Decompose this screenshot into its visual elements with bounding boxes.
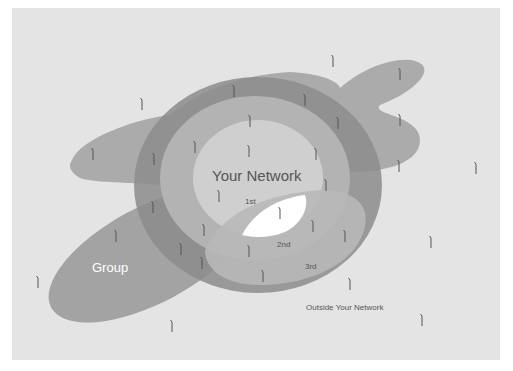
your-network-label: Your Network xyxy=(212,167,302,184)
outside-network-label: Outside Your Network xyxy=(306,303,384,312)
person-icon xyxy=(171,320,173,332)
person-icon xyxy=(141,98,143,110)
person-icon xyxy=(475,162,477,174)
person-icon xyxy=(37,276,39,288)
group-label: Group xyxy=(92,260,128,275)
person-icon xyxy=(332,55,334,67)
network-diagram: Your Network 1st 2nd 3rd Group Outside Y… xyxy=(0,0,513,371)
second-degree-label: 2nd xyxy=(277,240,290,249)
person-icon xyxy=(421,314,423,326)
first-degree-label: 1st xyxy=(245,197,256,206)
person-icon xyxy=(430,236,432,248)
third-degree-label: 3rd xyxy=(305,262,317,271)
person-icon xyxy=(349,278,351,290)
